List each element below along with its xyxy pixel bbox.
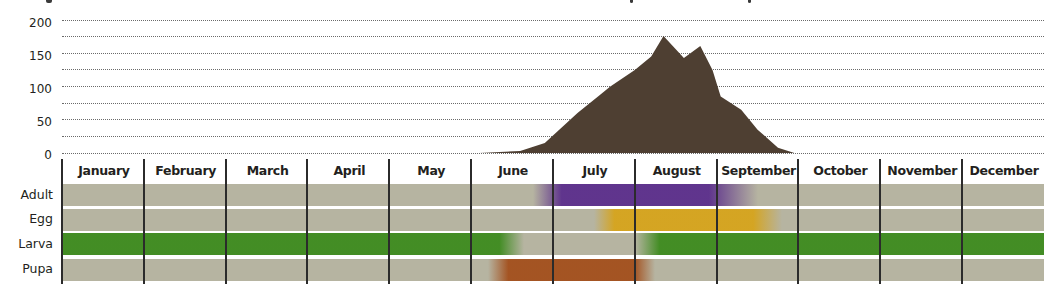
month-label-july: July [555,163,635,181]
row-label-adult: Adult [0,184,53,206]
row-label-larva: Larva [0,233,53,255]
month-label-september: September [719,163,799,181]
month-divider [306,159,308,284]
month-label-december: December [964,163,1044,181]
month-divider [470,159,472,284]
month-label-august: August [637,163,717,181]
month-label-january: January [64,163,144,181]
population-area-chart [0,0,1058,160]
month-label-march: March [228,163,308,181]
month-divider [797,159,799,284]
stage-presence-bar [62,233,524,255]
month-divider [61,159,63,284]
month-label-february: February [146,163,226,181]
month-divider [388,159,390,284]
population-area [479,36,794,153]
month-divider [225,159,227,284]
month-divider [879,159,881,284]
phenology-chart: 200 150 100 50 0 January February March … [0,0,1058,297]
stage-presence-bar [635,233,1044,255]
row-label-pupa: Pupa [0,258,53,280]
month-divider [634,159,636,284]
month-label-november: November [882,163,962,181]
month-divider [552,159,554,284]
stage-presence-bar [533,184,758,206]
month-divider [716,159,718,284]
month-divider [961,159,963,284]
stage-presence-bar [488,259,656,281]
stage-presence-bar [594,209,782,231]
month-label-april: April [309,163,389,181]
month-label-may: May [391,163,471,181]
month-label-october: October [800,163,880,181]
month-divider [143,159,145,284]
month-label-june: June [473,163,553,181]
row-label-egg: Egg [0,208,53,230]
